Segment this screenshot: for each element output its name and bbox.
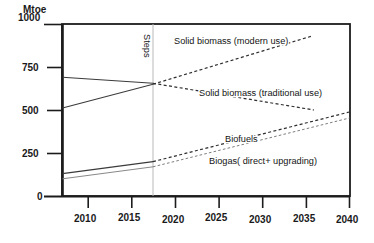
x-tick-label-2015: 2015 (118, 212, 141, 223)
x-tick-label-2030: 2030 (249, 214, 272, 225)
plot-frame (62, 24, 350, 196)
series-label-biogas: Biogas( direct+ upgrading) (209, 156, 317, 166)
series-line-solid-biomass-modern-historic (63, 84, 154, 108)
series-line-solid-biomass-traditional-historic (63, 77, 154, 83)
y-tick-label-750: 750 (22, 62, 39, 73)
x-tick-label-2010: 2010 (74, 213, 97, 224)
series-label-solid-biomass-modern: Solid biomass (modern use) (174, 36, 288, 46)
x-tick-label-2035: 2035 (293, 213, 316, 224)
line-chart: Mtoe 1000 750 500 250 0 2010 2015 2020 2… (0, 0, 374, 243)
x-tick-label-2040: 2040 (336, 214, 359, 225)
scenario-label-steps: Steps (142, 34, 152, 58)
series-label-solid-biomass-traditional: Solid biomass (traditional use) (199, 88, 322, 98)
chart-page: Mtoe 1000 750 500 250 0 2010 2015 2020 2… (0, 0, 374, 243)
x-tick-label-2025: 2025 (205, 212, 228, 223)
series-line-biofuels-historic (63, 162, 154, 174)
y-tick-label-250: 250 (22, 148, 39, 159)
x-tick-label-2020: 2020 (162, 214, 185, 225)
y-tick-label-500: 500 (22, 105, 39, 116)
y-tick-label-1000: 1000 (18, 12, 41, 23)
series-line-biogas-historic (63, 167, 154, 179)
series-label-biofuels: Biofuels (225, 134, 258, 144)
y-tick-label-0: 0 (37, 191, 43, 202)
